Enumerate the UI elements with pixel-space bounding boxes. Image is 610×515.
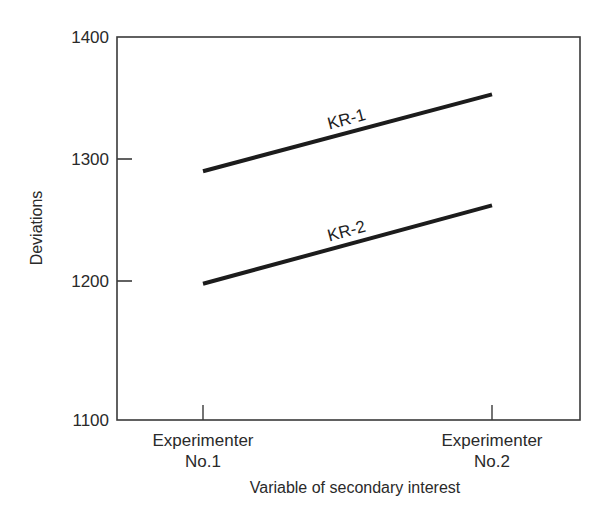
x-tick-label-sub: No.2 xyxy=(474,452,510,471)
y-axis-title: Deviations xyxy=(28,191,45,266)
y-tick-label: 1400 xyxy=(71,28,109,47)
x-axis-ticks: ExperimenterNo.1ExperimenterNo.2 xyxy=(152,405,542,471)
x-tick-label: Experimenter xyxy=(441,431,542,450)
line-chart: 1100120013001400 ExperimenterNo.1Experim… xyxy=(0,0,610,515)
y-axis-ticks: 1100120013001400 xyxy=(71,28,132,430)
x-tick-label-sub: No.1 xyxy=(185,452,221,471)
x-tick-label: Experimenter xyxy=(152,431,253,450)
x-axis-title: Variable of secondary interest xyxy=(250,479,461,496)
y-tick-label: 1200 xyxy=(71,272,109,291)
series-line-kr-2 xyxy=(203,205,492,283)
series-lines: KR-1KR-2 xyxy=(203,94,492,283)
y-tick-label: 1100 xyxy=(72,411,109,430)
y-tick-label: 1300 xyxy=(71,150,109,169)
series-line-kr-1 xyxy=(203,94,492,171)
